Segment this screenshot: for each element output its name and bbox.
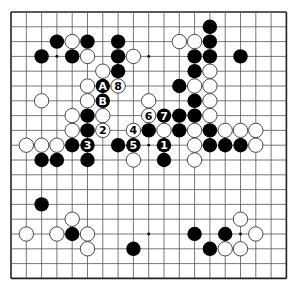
white-stone[interactable] bbox=[142, 94, 156, 108]
black-stone[interactable] bbox=[157, 153, 171, 167]
white-stone-6[interactable]: 6 bbox=[142, 108, 156, 122]
white-stone[interactable] bbox=[203, 94, 217, 108]
black-stone[interactable] bbox=[50, 34, 64, 48]
black-stone[interactable] bbox=[218, 227, 232, 241]
white-stone[interactable] bbox=[157, 123, 171, 137]
white-stone[interactable] bbox=[65, 123, 79, 137]
black-stone[interactable] bbox=[65, 138, 79, 152]
white-stone[interactable] bbox=[34, 94, 48, 108]
black-stone-3[interactable]: 3 bbox=[80, 138, 94, 152]
white-stone[interactable] bbox=[50, 138, 64, 152]
white-stone[interactable] bbox=[50, 227, 64, 241]
black-stone-disc bbox=[126, 242, 140, 256]
white-stone[interactable] bbox=[80, 49, 94, 63]
white-stone[interactable] bbox=[187, 138, 201, 152]
black-stone[interactable] bbox=[187, 108, 201, 122]
white-stone[interactable] bbox=[187, 153, 201, 167]
black-stone[interactable] bbox=[187, 49, 201, 63]
black-stone[interactable] bbox=[203, 20, 217, 34]
white-stone[interactable] bbox=[96, 108, 110, 122]
black-stone[interactable] bbox=[142, 123, 156, 137]
go-board[interactable]: A8B6724351 bbox=[0, 0, 293, 288]
black-stone-disc bbox=[203, 123, 217, 137]
star-point bbox=[239, 233, 242, 236]
white-stone[interactable] bbox=[65, 212, 79, 226]
white-stone[interactable] bbox=[172, 34, 186, 48]
white-stone-8[interactable]: 8 bbox=[111, 79, 125, 93]
black-stone[interactable] bbox=[172, 123, 186, 137]
black-stone[interactable] bbox=[233, 49, 247, 63]
black-stone[interactable] bbox=[203, 242, 217, 256]
black-stone-A[interactable]: A bbox=[96, 79, 110, 93]
white-stone[interactable] bbox=[80, 227, 94, 241]
black-stone[interactable] bbox=[172, 108, 186, 122]
white-stone-disc bbox=[203, 64, 217, 78]
black-stone[interactable] bbox=[34, 153, 48, 167]
black-stone[interactable] bbox=[34, 49, 48, 63]
star-point bbox=[56, 55, 59, 58]
black-stone[interactable] bbox=[203, 49, 217, 63]
white-stone[interactable] bbox=[126, 49, 140, 63]
black-stone-5[interactable]: 5 bbox=[126, 138, 140, 152]
black-stone[interactable] bbox=[233, 138, 247, 152]
move-label: 2 bbox=[99, 124, 107, 137]
black-stone[interactable] bbox=[111, 138, 125, 152]
black-stone[interactable] bbox=[187, 64, 201, 78]
white-stone[interactable] bbox=[65, 108, 79, 122]
move-label: A bbox=[99, 80, 108, 93]
black-stone[interactable] bbox=[203, 123, 217, 137]
white-stone-disc bbox=[142, 94, 156, 108]
black-stone[interactable] bbox=[111, 64, 125, 78]
black-stone[interactable] bbox=[203, 138, 217, 152]
black-stone[interactable] bbox=[187, 227, 201, 241]
white-stone[interactable] bbox=[233, 212, 247, 226]
white-stone[interactable] bbox=[233, 123, 247, 137]
black-stone[interactable] bbox=[65, 227, 79, 241]
black-stone[interactable] bbox=[111, 49, 125, 63]
black-stone-7[interactable]: 7 bbox=[157, 108, 171, 122]
white-stone[interactable] bbox=[187, 34, 201, 48]
white-stone[interactable] bbox=[203, 79, 217, 93]
white-stone[interactable] bbox=[233, 242, 247, 256]
black-stone-B[interactable]: B bbox=[96, 94, 110, 108]
white-stone[interactable] bbox=[249, 123, 263, 137]
black-stone[interactable] bbox=[203, 34, 217, 48]
black-stone[interactable] bbox=[111, 34, 125, 48]
black-stone[interactable] bbox=[126, 242, 140, 256]
white-stone[interactable] bbox=[80, 94, 94, 108]
white-stone-4[interactable]: 4 bbox=[126, 123, 140, 137]
white-stone[interactable] bbox=[126, 153, 140, 167]
black-stone[interactable] bbox=[218, 138, 232, 152]
black-stone[interactable] bbox=[80, 108, 94, 122]
white-stone[interactable] bbox=[34, 138, 48, 152]
white-stone[interactable] bbox=[249, 227, 263, 241]
white-stone[interactable] bbox=[65, 34, 79, 48]
black-stone[interactable] bbox=[80, 34, 94, 48]
white-stone-disc bbox=[249, 138, 263, 152]
black-stone[interactable] bbox=[80, 153, 94, 167]
black-stone[interactable] bbox=[50, 153, 64, 167]
white-stone[interactable] bbox=[218, 242, 232, 256]
white-stone-2[interactable]: 2 bbox=[96, 123, 110, 137]
white-stone[interactable] bbox=[187, 123, 201, 137]
white-stone[interactable] bbox=[203, 108, 217, 122]
white-stone[interactable] bbox=[187, 79, 201, 93]
white-stone[interactable] bbox=[19, 138, 33, 152]
white-stone[interactable] bbox=[249, 138, 263, 152]
white-stone[interactable] bbox=[96, 64, 110, 78]
black-stone[interactable] bbox=[80, 123, 94, 137]
black-stone[interactable] bbox=[65, 49, 79, 63]
white-stone[interactable] bbox=[80, 242, 94, 256]
white-stone[interactable] bbox=[19, 227, 33, 241]
white-stone[interactable] bbox=[203, 64, 217, 78]
white-stone[interactable] bbox=[80, 79, 94, 93]
black-stone-1[interactable]: 1 bbox=[157, 138, 171, 152]
white-stone[interactable] bbox=[218, 123, 232, 137]
black-stone[interactable] bbox=[187, 94, 201, 108]
black-stone-disc bbox=[233, 49, 247, 63]
white-stone-disc bbox=[203, 79, 217, 93]
white-stone-disc bbox=[19, 138, 33, 152]
black-stone[interactable] bbox=[34, 197, 48, 211]
black-stone-disc bbox=[111, 49, 125, 63]
black-stone[interactable] bbox=[172, 79, 186, 93]
